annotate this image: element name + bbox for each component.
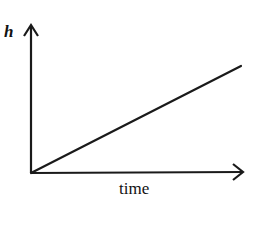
x-axis-label: time (119, 180, 149, 197)
y-axis-label: h (4, 23, 13, 40)
h-vs-time-line (31, 66, 241, 173)
x-axis (31, 172, 243, 173)
